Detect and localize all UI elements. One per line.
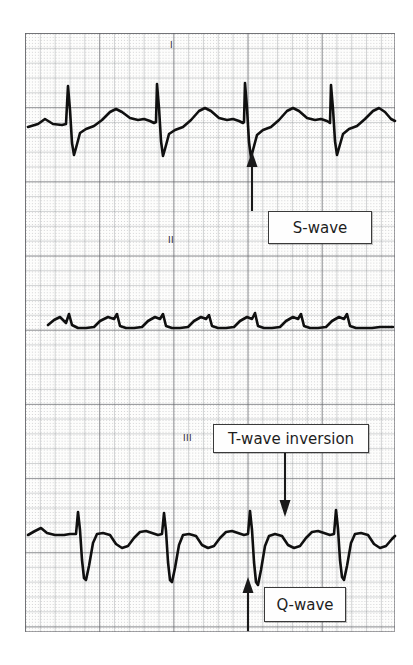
callout-q-wave: Q-wave bbox=[264, 587, 346, 622]
lead-label-i: I bbox=[170, 41, 173, 50]
lead-label-iii: III bbox=[183, 434, 192, 443]
lead-label-ii: II bbox=[168, 236, 174, 245]
callout-s-wave: S-wave bbox=[268, 211, 372, 244]
callout-t-wave-inversion: T-wave inversion bbox=[213, 424, 369, 453]
ecg-graph-paper bbox=[25, 33, 395, 632]
ecg-figure: I II III S-wave T-wave inversion Q-wave bbox=[0, 0, 413, 665]
